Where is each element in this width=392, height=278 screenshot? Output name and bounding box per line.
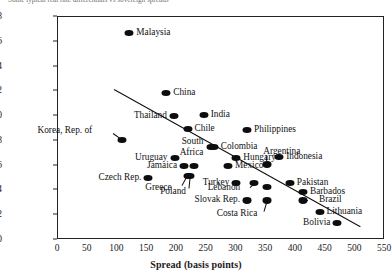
x-tick-label-3: 150 [139,243,153,253]
point-label-poland: Poland [160,187,186,196]
x-axis-title: Spread (basis points) [0,259,392,270]
data-point-philippines [243,127,252,133]
y-tick-label-0: 0 [0,234,2,244]
data-point-barbados [298,189,307,195]
point-label-chile: Chile [195,124,215,133]
x-tick-label-0: 0 [55,243,60,253]
point-label-south-africa-0: South [182,137,204,146]
y-tick-mark-1 [53,214,57,215]
x-tick-label-2: 100 [109,243,123,253]
point-label-korea-rep-of: Korea, Rep. of [37,126,92,135]
point-label-argentina: Argentina [263,148,300,157]
x-tick-label-6: 300 [228,243,242,253]
y-tick-mark-3 [53,164,57,165]
y-tick-label-3: 6 [0,160,2,170]
point-label-india: India [211,110,230,119]
y-tick-mark-8 [53,40,57,41]
y-tick-mark-7 [53,65,57,66]
y-tick-label-9: 18 [0,11,2,21]
data-point-jamaica-2 [189,163,198,169]
data-point-mexico [224,163,233,169]
x-tick-label-5: 250 [199,243,213,253]
y-tick-mark-4 [53,139,57,140]
data-point-slovak-rep- [243,197,252,203]
data-point-chile [183,125,192,131]
data-point-thailand [169,113,178,119]
point-label-slovak-rep-: Slovak Rep. [195,196,240,205]
leader-line-poland [188,176,190,188]
point-label-colombia: Colombia [221,142,258,151]
x-tick-label-11: 550 [377,243,391,253]
data-point-china [162,89,171,95]
x-tick-label-7: 350 [258,243,272,253]
y-tick-label-7: 14 [0,61,2,71]
x-tick-label-10: 500 [347,243,361,253]
data-point-jamaica [180,163,189,169]
x-tick-label-9: 450 [317,243,331,253]
data-point-pakistan [285,180,294,186]
data-point-argentina-pt [263,184,272,190]
y-tick-label-8: 16 [0,36,2,46]
x-tick-label-1: 50 [82,243,92,253]
scatter-chart: Some typical real rate differentials vs … [0,0,392,278]
point-label-mexico: Mexico [235,161,263,170]
y-tick-label-2: 4 [0,184,2,194]
point-label-costa-rica: Costa Rica [217,210,258,219]
plot-area: MalaysiaChinaThailandIndiaKorea, Rep. of… [57,16,384,239]
data-point-colombia [209,144,218,150]
point-label-china: China [173,88,195,97]
point-label-thailand: Thailand [134,111,167,120]
point-label-lebanon: Lebanon [208,183,241,192]
point-label-czech-rep-: Czech Rep. [99,173,142,182]
point-label-lithuania: Lithuania [327,207,363,216]
y-tick-mark-5 [53,115,57,116]
chart-title-clipped: Some typical real rate differentials vs … [8,0,388,4]
y-tick-label-4: 8 [0,135,2,145]
y-tick-mark-0 [53,239,57,240]
point-label-malaysia: Malaysia [136,28,170,37]
point-label-philippines: Philippines [254,125,296,134]
y-tick-mark-6 [53,90,57,91]
data-point-lithuania [315,208,324,214]
y-tick-label-1: 2 [0,209,2,219]
data-point-bolivia [333,220,342,226]
y-tick-label-6: 12 [0,85,2,95]
data-point-czech-rep- [144,175,153,181]
point-label-brazil: Brazil [319,196,342,205]
y-tick-mark-2 [53,189,57,190]
data-point-malaysia [125,30,134,36]
y-tick-label-5: 10 [0,110,2,120]
data-point-india [199,112,208,118]
point-label-south-africa-1: Africa [180,148,204,157]
x-tick-label-4: 200 [169,243,183,253]
x-tick-label-8: 400 [288,243,302,253]
point-label-jamaica: Jamaica [147,161,177,170]
y-tick-mark-9 [53,16,57,17]
point-label-bolivia: Bolivia [303,218,330,227]
